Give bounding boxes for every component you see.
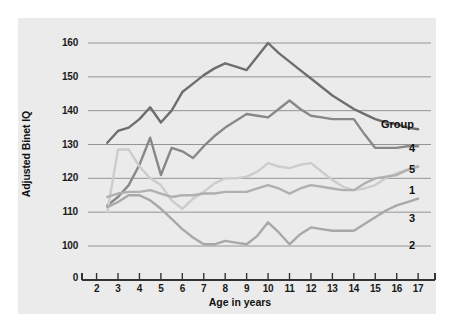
legend-title: Group — [381, 118, 414, 130]
y-axis-tick-label: 100 — [48, 240, 78, 251]
x-axis-tick-label: 15 — [365, 283, 385, 294]
x-axis-tick-label: 4 — [129, 283, 149, 294]
x-axis-tick-label: 7 — [194, 283, 214, 294]
x-axis-tick-label: 11 — [280, 283, 300, 294]
y-axis-tick-label: 130 — [48, 139, 78, 150]
data-series-group — [107, 43, 418, 244]
legend-key-group-4: 4 — [409, 142, 415, 154]
legend-key-group-5: 5 — [409, 163, 415, 175]
legend-key-group-2: 2 — [409, 239, 415, 251]
x-axis-ticks-group — [97, 273, 419, 280]
chart-figure: 1001101201301401501600 23456789101112131… — [0, 0, 453, 333]
y-axis-tick-label: 160 — [48, 37, 78, 48]
y-axis-tick-label: 110 — [48, 206, 78, 217]
x-axis-tick-label: 14 — [344, 283, 364, 294]
x-axis-tick-label: 3 — [108, 283, 128, 294]
x-axis-tick-label: 2 — [87, 283, 107, 294]
x-axis-tick-label: 10 — [258, 283, 278, 294]
x-axis-tick-label: 8 — [215, 283, 235, 294]
x-axis-line — [82, 273, 435, 280]
series-line-group-2 — [107, 195, 418, 244]
x-axis-tick-label: 9 — [237, 283, 257, 294]
y-axis-tick-label: 150 — [48, 71, 78, 82]
x-axis-tick-label: 5 — [151, 283, 171, 294]
y-axis-title: Adjusted Binet IQ — [20, 94, 32, 214]
y-axis-zero-label: 0 — [48, 272, 78, 283]
legend-key-group-1: 1 — [409, 184, 415, 196]
x-axis-tick-label: 13 — [322, 283, 342, 294]
series-line-group-4 — [107, 43, 418, 143]
y-axis-tick-label: 140 — [48, 105, 78, 116]
x-axis-tick-label: 6 — [172, 283, 192, 294]
x-axis-tick-label: 16 — [387, 283, 407, 294]
legend-key-group-3: 3 — [409, 212, 415, 224]
y-axis-tick-label: 120 — [48, 172, 78, 183]
x-axis-title: Age in years — [130, 296, 350, 308]
x-axis-tick-label: 12 — [301, 283, 321, 294]
x-axis-tick-label: 17 — [408, 283, 428, 294]
